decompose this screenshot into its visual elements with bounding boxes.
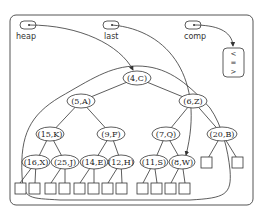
svg-text:(12,H): (12,H) — [108, 158, 134, 167]
comparator-box: < = > — [223, 48, 244, 77]
tree-node: (16,X) — [22, 155, 50, 169]
svg-text:(11,S): (11,S) — [142, 158, 166, 167]
outer-frame — [10, 15, 253, 205]
svg-text:(15,K): (15,K) — [38, 130, 63, 139]
svg-text:(9,F): (9,F) — [101, 130, 120, 139]
tree-node: (15,K) — [36, 127, 64, 141]
svg-text:(16,X): (16,X) — [24, 158, 49, 167]
pointer-label: comp — [184, 32, 206, 41]
pointer-comp: comp — [184, 21, 206, 41]
tree-node: (11,S) — [140, 155, 168, 169]
pointer-last: last — [103, 21, 119, 41]
greater-than-symbol: > — [231, 68, 237, 76]
tree-node: (9,F) — [97, 127, 125, 141]
svg-text:(8,W): (8,W) — [171, 158, 193, 167]
tree-node: (12,H) — [108, 155, 134, 169]
tree-node: (4,C) — [123, 71, 151, 85]
svg-text:(14,E): (14,E) — [82, 158, 107, 167]
heap-diagram: heap last comp < = > — [0, 0, 262, 216]
tree-node: (5,A) — [67, 94, 95, 108]
tree-node: (20,B) — [207, 127, 237, 141]
tree-node: (25,J) — [51, 155, 79, 169]
svg-text:(7,Q): (7,Q) — [156, 130, 176, 139]
svg-text:(6,Z): (6,Z) — [183, 97, 202, 106]
pointer-label: heap — [16, 32, 36, 41]
tree-node: (8,W) — [169, 155, 195, 169]
equals-symbol: = — [231, 59, 237, 67]
pointer-heap: heap — [16, 21, 36, 41]
less-than-symbol: < — [231, 50, 237, 58]
svg-text:(25,J): (25,J) — [54, 158, 76, 167]
tree-node: (6,Z) — [179, 94, 207, 108]
svg-text:(20,B): (20,B) — [210, 130, 235, 139]
tree-node: (14,E) — [80, 155, 108, 169]
pointer-label: last — [104, 32, 118, 41]
svg-text:(5,A): (5,A) — [71, 97, 91, 106]
tree-node: (7,Q) — [152, 127, 180, 141]
svg-text:(4,C): (4,C) — [127, 74, 147, 83]
